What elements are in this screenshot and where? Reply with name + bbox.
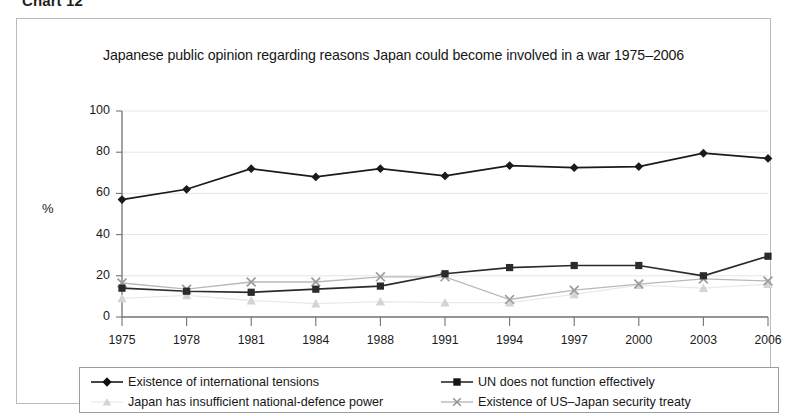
diamond-marker-icon (90, 375, 124, 389)
x-tick-label: 1978 (157, 333, 217, 347)
x-tick-label: 1994 (480, 333, 540, 347)
series-group (118, 149, 773, 204)
plot-area (122, 111, 768, 317)
x-tick-label: 1988 (350, 333, 410, 347)
square-data-point (635, 262, 642, 269)
square-data-point (441, 270, 448, 277)
diamond-data-point (441, 171, 450, 180)
y-axis-title: % (42, 201, 54, 216)
legend-label: UN does not function effectively (478, 375, 655, 389)
y-tick-label: 100 (70, 103, 110, 117)
square-data-point (312, 286, 319, 293)
square-data-point (700, 272, 707, 279)
square-data-point (248, 289, 255, 296)
y-tick-label: 20 (70, 268, 110, 282)
square-data-point (183, 288, 190, 295)
x-tick-label: 2000 (609, 333, 669, 347)
x-tick-label: 2006 (738, 333, 787, 347)
diamond-data-point (505, 161, 514, 170)
diamond-data-point (634, 162, 643, 171)
diamond-data-point (699, 149, 708, 158)
triangle-marker-icon (90, 395, 124, 409)
square-data-point (506, 264, 513, 271)
diamond-data-point (570, 163, 579, 172)
legend-label: Japan has insufficient national-defence … (128, 395, 383, 409)
series-line (122, 277, 768, 300)
square-marker-icon (440, 375, 474, 389)
y-tick-label: 80 (70, 144, 110, 158)
square-data-point (571, 262, 578, 269)
legend-item-insufficient-defence[interactable]: Japan has insufficient national-defence … (90, 395, 383, 409)
diamond-data-point (376, 164, 385, 173)
x-tick-label: 1984 (286, 333, 346, 347)
x-tick-label: 2003 (673, 333, 733, 347)
square-data-point (764, 253, 771, 260)
x-tick-label: 1991 (415, 333, 475, 347)
chart-legend: Existence of international tensions UN d… (79, 367, 779, 413)
square-data-point (118, 285, 125, 292)
legend-item-un-not-effective[interactable]: UN does not function effectively (440, 375, 655, 389)
diamond-data-point (311, 173, 320, 182)
y-tick-label: 40 (70, 227, 110, 241)
square-data-point (377, 283, 384, 290)
diamond-data-point (182, 185, 191, 194)
y-tick-label: 0 (70, 309, 110, 323)
legend-item-us-japan-treaty[interactable]: Existence of US–Japan security treaty (440, 395, 691, 409)
chart-page: Chart 12 Japanese public opinion regardi… (0, 0, 787, 416)
x-tick-label: 1975 (92, 333, 152, 347)
figure-caption: Chart 12 (22, 0, 83, 12)
diamond-data-point (764, 154, 773, 163)
diamond-data-point (247, 164, 256, 173)
legend-label: Existence of US–Japan security treaty (478, 395, 691, 409)
figure-frame: Japanese public opinion regarding reason… (16, 18, 771, 404)
legend-item-international-tensions[interactable]: Existence of international tensions (90, 375, 319, 389)
series-group (118, 253, 771, 296)
y-tick-label: 60 (70, 185, 110, 199)
diamond-data-point (118, 195, 127, 204)
x-tick-label: 1997 (544, 333, 604, 347)
series-group (117, 279, 772, 307)
cross-marker-icon (440, 395, 474, 409)
x-tick-label: 1981 (221, 333, 281, 347)
legend-label: Existence of international tensions (128, 375, 319, 389)
series-plot (122, 111, 768, 317)
chart-title: Japanese public opinion regarding reason… (17, 47, 770, 63)
